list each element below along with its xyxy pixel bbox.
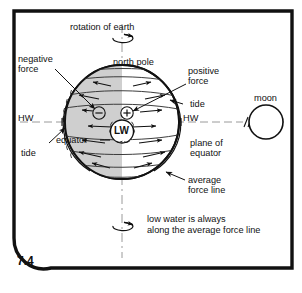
note-line2: along the average force line [147, 225, 260, 236]
label-hw-right: HW [183, 113, 198, 124]
label-positive-force-line1: positive [188, 66, 219, 77]
label-moon: moon [254, 93, 277, 104]
label-rotation-of-earth: rotation of earth [70, 22, 134, 33]
label-positive-force-line2: force [188, 76, 208, 87]
label-negative-force-line1: negative [18, 54, 53, 65]
label-equator: equator [56, 135, 87, 146]
label-average-force-line1: average [188, 175, 221, 186]
label-tide-right: tide [190, 99, 205, 110]
label-hw-left: HW [18, 113, 33, 124]
label-plane-of-equator-line2: equator [190, 148, 221, 159]
figure-number: 7.4 [17, 254, 34, 268]
label-negative-force-line2: force [18, 64, 38, 75]
label-average-force-line2: force line [188, 185, 225, 196]
tide-force-diagram [0, 0, 302, 293]
positive-force-marker [121, 107, 133, 119]
note-line1: low water is always [147, 214, 226, 225]
moon-circle [249, 105, 283, 139]
label-low-water: LW [114, 126, 129, 137]
label-plane-of-equator-line1: plane of [190, 138, 223, 149]
label-tide-left: tide [21, 148, 36, 159]
label-north-pole: north pole [113, 57, 154, 68]
figure-panel: rotation of earth north pole negative fo… [0, 0, 302, 293]
